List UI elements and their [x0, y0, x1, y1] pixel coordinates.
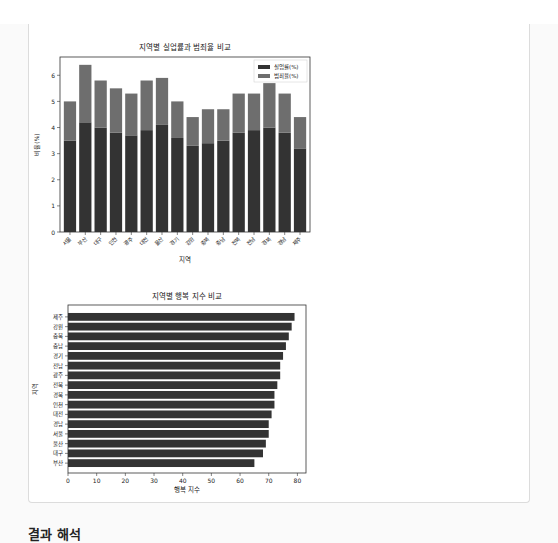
bar-segment: [294, 148, 306, 232]
bar-segment: [64, 141, 76, 232]
x-axis-label: 지역: [179, 255, 191, 264]
y-tick-label: 1: [51, 202, 55, 209]
bar: [68, 459, 254, 467]
bar: [68, 352, 283, 360]
section-heading: 결과 해석: [28, 524, 81, 543]
y-axis-label: 비율(%): [33, 133, 41, 155]
y-tick-label: 2: [51, 176, 55, 183]
x-tick-label: 대구: [91, 235, 104, 248]
y-tick-label: 5: [51, 98, 55, 105]
x-axis-label: 행복 지수: [174, 485, 200, 494]
y-tick-label: 서울: [53, 430, 63, 438]
chart-svg: 지역별 실업률과 범죄율 비교서울부산대구인천광주대전울산경기강원충북충남전북전…: [29, 24, 329, 264]
bar-segment: [217, 109, 229, 140]
bar: [68, 391, 274, 399]
bar-segment: [248, 94, 260, 131]
x-tick-label: 광주: [123, 235, 135, 247]
x-tick-label: 강원: [183, 235, 195, 247]
legend-label: 실업률(%): [274, 63, 299, 70]
x-tick-label: 경남: [275, 235, 287, 247]
bar: [68, 313, 295, 321]
x-tick-label: 10: [93, 477, 101, 484]
y-tick-label: 3: [51, 150, 55, 157]
x-tick-label: 경북: [261, 235, 273, 247]
bar-segment: [187, 117, 199, 146]
stacked-bar-chart: 지역별 실업률과 범죄율 비교서울부산대구인천광주대전울산경기강원충북충남전북전…: [29, 24, 329, 264]
bar-segment: [217, 141, 229, 232]
x-tick-label: 충북: [199, 235, 212, 248]
bar-segment: [279, 94, 291, 133]
bar-segment: [141, 81, 153, 131]
bar-segment: [64, 101, 76, 140]
x-tick-label: 울산: [153, 235, 165, 247]
chart-title: 지역별 행복 지수 비교: [152, 291, 222, 301]
bar: [68, 342, 286, 350]
x-tick-label: 제주: [291, 235, 304, 248]
x-tick-label: 80: [294, 477, 302, 484]
bar-segment: [79, 122, 91, 232]
x-tick-label: 인천: [107, 235, 119, 247]
y-tick-label: 강원: [53, 323, 63, 330]
bar-segment: [110, 133, 122, 232]
chart-svg: 지역별 행복 지수 비교제주강원충북충남경기전남광주전북경북인천대전경남서울울산…: [29, 282, 329, 502]
bar-segment: [279, 133, 291, 232]
bar: [68, 371, 280, 379]
legend-swatch: [258, 74, 270, 78]
bar-segment: [141, 130, 153, 232]
x-tick-label: 부산: [76, 235, 89, 248]
bar: [68, 323, 292, 331]
y-tick-label: 울산: [53, 440, 63, 447]
bar-segment: [202, 109, 214, 143]
bar-segment: [187, 146, 199, 232]
x-tick-label: 대전: [137, 235, 150, 248]
bar: [68, 381, 277, 389]
bar-segment: [110, 88, 122, 132]
top-band: [0, 0, 558, 24]
y-tick-label: 4: [51, 124, 55, 131]
bar-segment: [95, 128, 107, 232]
x-tick-label: 60: [236, 477, 244, 484]
x-tick-label: 전북: [229, 235, 242, 248]
bar-segment: [125, 135, 137, 232]
legend-swatch: [258, 65, 270, 69]
bar: [68, 332, 289, 340]
output-card: 지역별 실업률과 범죄율 비교서울부산대구인천광주대전울산경기강원충북충남전북전…: [28, 24, 530, 503]
bar-segment: [171, 101, 183, 138]
y-tick-label: 전남: [53, 362, 63, 369]
y-axis-label: 지역: [31, 383, 39, 395]
bar-segment: [233, 94, 245, 133]
bar: [68, 420, 269, 428]
bar-segment: [79, 65, 91, 122]
bar: [68, 401, 274, 409]
y-tick-label: 전북: [53, 381, 63, 389]
legend-label: 범죄율(%): [274, 72, 299, 80]
x-tick-label: 경기: [168, 235, 181, 248]
y-tick-label: 인천: [53, 401, 63, 408]
x-tick-label: 70: [265, 477, 273, 484]
chart-title: 지역별 실업률과 범죄율 비교: [139, 42, 230, 52]
x-tick-label: 0: [66, 477, 70, 484]
bar-segment: [125, 94, 137, 136]
bar: [68, 430, 269, 438]
y-tick-label: 광주: [53, 372, 63, 379]
y-tick-label: 충남: [53, 342, 63, 349]
bar: [68, 449, 263, 457]
bar-segment: [263, 83, 275, 127]
bar-segment: [233, 133, 245, 232]
y-tick-label: 제주: [53, 313, 63, 321]
y-tick-label: 부산: [53, 459, 63, 467]
horizontal-bar-chart: 지역별 행복 지수 비교제주강원충북충남경기전남광주전북경북인천대전경남서울울산…: [29, 282, 329, 502]
bar-segment: [248, 130, 260, 232]
x-tick-label: 50: [208, 477, 216, 484]
x-tick-label: 20: [122, 477, 130, 484]
y-tick-label: 대전: [53, 410, 63, 418]
bar: [68, 362, 280, 370]
x-tick-label: 전남: [245, 235, 257, 247]
bar-segment: [95, 81, 107, 128]
x-tick-label: 서울: [61, 235, 74, 248]
x-tick-label: 40: [179, 477, 187, 484]
bar-segment: [263, 128, 275, 232]
y-tick-label: 0: [51, 229, 55, 236]
y-tick-label: 6: [51, 72, 55, 79]
bar-segment: [156, 125, 168, 232]
